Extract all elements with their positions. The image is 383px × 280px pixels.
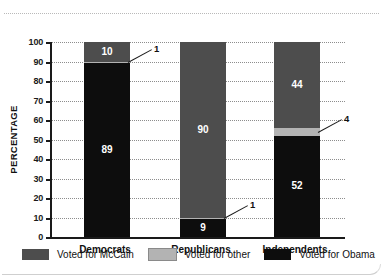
plot-area: 100908070605040302010089110191901524444 — [50, 42, 345, 239]
legend-swatch — [22, 249, 49, 260]
stacked-bar-chart: PERCENTAGE 10090807060504030201008911019… — [0, 18, 383, 240]
callout-value: 1 — [154, 43, 159, 54]
bar-segment-voted-for-mccain[interactable]: 44 — [274, 42, 320, 128]
bar-segment-voted-for-mccain[interactable]: 10 — [84, 42, 130, 62]
y-axis-tick-label: 40 — [33, 154, 43, 164]
y-axis-tick-label: 70 — [33, 96, 43, 106]
chart-legend: Voted for McCainVoted for otherVoted for… — [22, 248, 362, 261]
bar-segment-value: 90 — [197, 125, 208, 135]
legend-label: Voted for McCain — [57, 249, 134, 260]
y-axis-tick — [46, 179, 52, 181]
y-axis-tick — [46, 120, 52, 122]
bar-segment-voted-for-other[interactable]: 1 — [84, 62, 130, 64]
y-axis-tick — [46, 159, 52, 161]
bar-segment-voted-for-other[interactable]: 4 — [274, 128, 320, 136]
bar-segment-value: 10 — [101, 47, 112, 57]
y-axis-tick-label: 30 — [33, 174, 43, 184]
bar-segment-value: 9 — [200, 223, 206, 233]
y-axis-title-text: PERCENTAGE — [8, 105, 19, 173]
y-axis-tick-label: 20 — [33, 193, 43, 203]
page-bottom-edge — [2, 264, 381, 275]
legend-swatch — [264, 249, 291, 260]
bar-segment-value: 52 — [291, 181, 302, 191]
bar-segment-voted-for-obama[interactable]: 89 — [84, 63, 130, 237]
bar-independents[interactable]: 52444 — [274, 42, 320, 237]
y-axis-tick-label: 0 — [38, 232, 43, 242]
y-axis-tick — [46, 62, 52, 64]
y-axis-tick-label: 60 — [33, 115, 43, 125]
legend-swatch — [148, 248, 177, 261]
bar-segment-voted-for-obama[interactable]: 52 — [274, 136, 320, 237]
bar-segment-value: 44 — [291, 80, 302, 90]
bar-segment-voted-for-obama[interactable]: 9 — [180, 219, 226, 237]
legend-label: Voted for Obama — [299, 249, 375, 260]
bar-republicans[interactable]: 9190 — [180, 42, 226, 237]
y-axis-title: PERCENTAGE — [6, 42, 20, 237]
y-axis-tick — [46, 140, 52, 142]
y-axis-tick — [46, 42, 52, 44]
y-axis-tick-label: 10 — [33, 213, 43, 223]
bar-segment-value: 89 — [101, 145, 112, 155]
page-top-rule — [4, 13, 379, 14]
bar-segment-voted-for-mccain[interactable]: 90 — [180, 42, 226, 218]
legend-item[interactable]: Voted for other — [148, 248, 251, 261]
y-axis-tick — [46, 101, 52, 103]
legend-item[interactable]: Voted for McCain — [22, 249, 134, 260]
y-axis-tick-label: 100 — [29, 37, 43, 47]
bar-democrats[interactable]: 89110 — [84, 42, 130, 237]
y-axis-tick — [46, 218, 52, 220]
legend-item[interactable]: Voted for Obama — [264, 249, 375, 260]
y-axis-tick-label: 90 — [33, 57, 43, 67]
y-axis-tick-label: 80 — [33, 76, 43, 86]
y-axis-tick — [46, 237, 52, 239]
bar-segment-voted-for-other[interactable]: 1 — [180, 218, 226, 220]
legend-label: Voted for other — [185, 249, 251, 260]
callout-value: 1 — [250, 199, 255, 210]
callout-value: 4 — [344, 113, 349, 124]
y-axis-tick — [46, 81, 52, 83]
y-axis-tick-label: 50 — [33, 135, 43, 145]
y-axis-tick — [46, 198, 52, 200]
